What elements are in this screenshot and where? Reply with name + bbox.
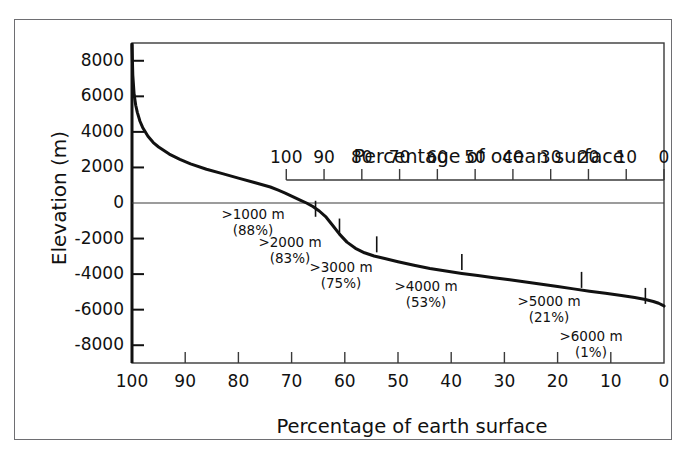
annotation-percent-label: (21%) <box>507 310 591 326</box>
annotation-depth-label: >5000 m <box>507 294 591 310</box>
x-tick-label: 40 <box>421 371 481 391</box>
x-tick-label: 50 <box>368 371 428 391</box>
x-tick-label: 20 <box>528 371 588 391</box>
x-tick-label: 70 <box>262 371 322 391</box>
y-tick-label: 2000 <box>28 156 124 176</box>
curve-annotation: >4000 m(53%) <box>384 279 468 310</box>
curve-annotation: >5000 m(21%) <box>507 294 591 325</box>
figure-root: 80006000400020000-2000-4000-6000-8000 10… <box>0 0 687 451</box>
y-tick-label: -6000 <box>28 299 124 319</box>
x-tick-label: 90 <box>155 371 215 391</box>
x-axis-title: Percentage of earth surface <box>146 415 678 438</box>
x-tick-label: 60 <box>315 371 375 391</box>
y-tick-label: -4000 <box>28 263 124 283</box>
annotation-depth-label: >1000 m <box>211 207 295 223</box>
annotation-depth-label: >4000 m <box>384 279 468 295</box>
y-tick-label: 0 <box>28 192 124 212</box>
y-tick-label: -2000 <box>28 228 124 248</box>
y-tick-label: 8000 <box>28 50 124 70</box>
annotation-depth-label: >6000 m <box>549 329 633 345</box>
y-tick-label: 6000 <box>28 85 124 105</box>
y-tick-label: -8000 <box>28 334 124 354</box>
y-axis-title: Elevation (m) <box>47 68 71 328</box>
curve-annotation: >3000 m(75%) <box>299 260 383 291</box>
x-tick-label: 0 <box>634 371 687 391</box>
annotation-depth-label: >3000 m <box>299 260 383 276</box>
secondary-axis-title: Percentage of ocean surface <box>300 145 678 167</box>
annotation-depth-label: >2000 m <box>248 235 332 251</box>
x-tick-label: 80 <box>208 371 268 391</box>
curve-group <box>132 45 664 306</box>
x-tick-label: 100 <box>102 371 162 391</box>
annotation-percent-label: (53%) <box>384 295 468 311</box>
curve-annotation: >6000 m(1%) <box>549 329 633 360</box>
figure-border: 80006000400020000-2000-4000-6000-8000 10… <box>14 19 672 440</box>
secondary-axis-group <box>286 169 664 180</box>
x-tick-label: 10 <box>581 371 641 391</box>
y-tick-label: 4000 <box>28 121 124 141</box>
x-tick-label: 30 <box>474 371 534 391</box>
annotation-percent-label: (75%) <box>299 276 383 292</box>
annotation-percent-label: (1%) <box>549 345 633 361</box>
